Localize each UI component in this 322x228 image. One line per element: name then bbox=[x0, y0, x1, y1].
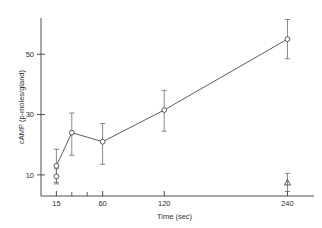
line-chart: 1030501560120240Time (sec)cAMP (p-moles/… bbox=[0, 0, 322, 228]
data-point-circle bbox=[285, 37, 290, 42]
chart-figure: 1030501560120240Time (sec)cAMP (p-moles/… bbox=[0, 0, 322, 228]
x-tick-label: 15 bbox=[52, 199, 60, 208]
data-point-circle bbox=[69, 130, 74, 135]
chart-ticks bbox=[37, 54, 287, 196]
data-point-circle bbox=[54, 163, 59, 168]
chart-series bbox=[54, 20, 291, 192]
y-tick-label: 50 bbox=[26, 50, 34, 59]
data-point-circle bbox=[54, 174, 59, 179]
y-axis-title: cAMP (p-moles/gland) bbox=[17, 69, 26, 144]
x-axis-title: Time (sec) bbox=[157, 212, 193, 221]
data-point-circle bbox=[100, 139, 105, 144]
series-line bbox=[56, 39, 287, 166]
y-tick-label: 10 bbox=[26, 171, 34, 180]
chart-labels: 1030501560120240Time (sec)cAMP (p-moles/… bbox=[17, 50, 294, 221]
x-tick-label: 240 bbox=[281, 199, 294, 208]
x-tick-label: 60 bbox=[98, 199, 106, 208]
data-point-circle bbox=[162, 108, 167, 113]
y-tick-label: 30 bbox=[26, 110, 34, 119]
chart-axes bbox=[41, 18, 314, 196]
x-tick-label: 120 bbox=[158, 199, 171, 208]
